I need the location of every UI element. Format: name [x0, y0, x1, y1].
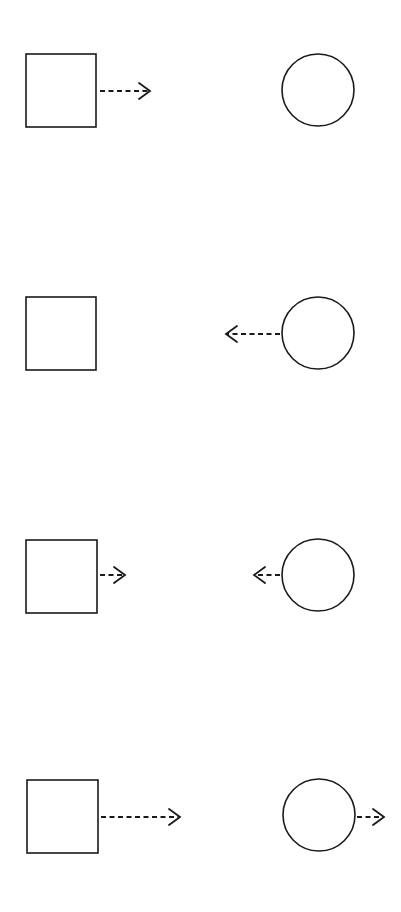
dashed-arrow-left-icon	[254, 567, 280, 583]
circle-shape	[282, 297, 354, 369]
dashed-arrow-right-icon	[100, 567, 125, 583]
diagram-canvas	[0, 0, 401, 912]
dashed-arrow-right-icon	[100, 83, 150, 99]
row-3	[26, 539, 354, 613]
square-shape	[26, 297, 96, 370]
circle-shape	[283, 779, 355, 851]
dashed-arrow-right-icon	[357, 809, 384, 825]
circle-shape	[282, 539, 354, 611]
row-4	[27, 779, 384, 853]
square-shape	[26, 54, 96, 127]
square-shape	[26, 540, 97, 613]
circle-shape	[282, 54, 354, 126]
row-2	[26, 297, 354, 370]
row-1	[26, 54, 354, 127]
dashed-arrow-right-icon	[101, 809, 180, 825]
dashed-arrow-left-icon	[226, 326, 280, 342]
square-shape	[27, 780, 98, 853]
